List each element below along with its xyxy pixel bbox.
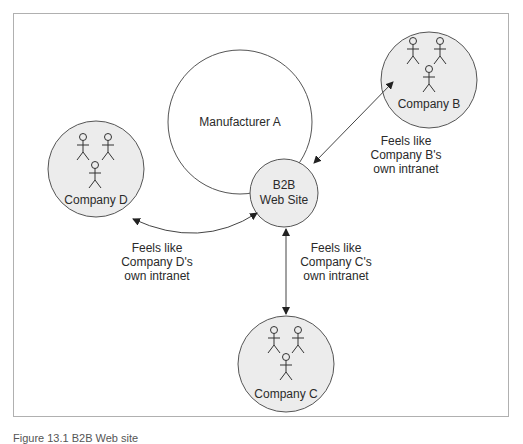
edge-label-b: Feels like Company B's own intranet [371,134,442,176]
edge-label-d: Feels like Company D's own intranet [121,241,193,283]
company-c-node: Company C [238,316,334,412]
company-c-label: Company C [254,387,318,401]
svg-text:own intranet: own intranet [124,269,190,283]
b2b-label-line1: B2B [273,178,296,192]
company-b-label: Company B [398,97,461,111]
svg-text:Feels like: Feels like [311,241,362,255]
company-d-node: Company D [48,121,144,217]
svg-text:own intranet: own intranet [303,269,369,283]
manufacturer-label: Manufacturer A [199,115,280,129]
company-b-node: Company B [381,32,477,128]
svg-text:Company D's: Company D's [121,255,193,269]
svg-text:own intranet: own intranet [373,162,439,176]
svg-text:Feels like: Feels like [381,134,432,148]
figure-caption: Figure 13.1 B2B Web site [13,432,138,444]
svg-text:Feels like: Feels like [132,241,183,255]
edge-label-c: Feels like Company C's own intranet [300,241,372,283]
svg-text:Company B's: Company B's [371,148,442,162]
svg-text:Company C's: Company C's [300,255,372,269]
company-d-label: Company D [64,193,128,207]
b2b-site-node: B2B Web Site [250,159,318,227]
b2b-label-line2: Web Site [260,193,309,207]
